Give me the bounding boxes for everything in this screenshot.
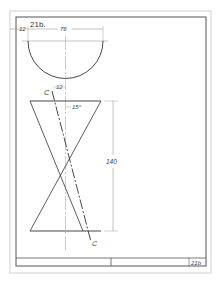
outer-border (10, 11, 211, 273)
svg-text:12: 12 (56, 84, 63, 90)
problem-number: 21b. (30, 20, 46, 29)
svg-text:76: 76 (60, 26, 67, 32)
angle-annotation: 15° (66, 104, 82, 110)
svg-text:140: 140 (106, 158, 117, 165)
svg-text:15°: 15° (72, 104, 82, 110)
height-dimension: 140 (104, 101, 118, 231)
offset-dimension: 12 (53, 84, 65, 90)
cutting-plane-label-top: C (44, 88, 50, 97)
left-margin-dimension: 12 (10, 26, 28, 32)
cutting-plane-label-bottom: C (92, 240, 98, 247)
drawing-sheet: 21b 12 21b. 76 12 15° (0, 0, 217, 284)
cutting-plane: C C (44, 88, 98, 247)
title-block-number: 21b (190, 260, 202, 266)
title-block: 21b (16, 258, 206, 266)
svg-text:12: 12 (19, 26, 26, 32)
inner-border (16, 17, 206, 266)
